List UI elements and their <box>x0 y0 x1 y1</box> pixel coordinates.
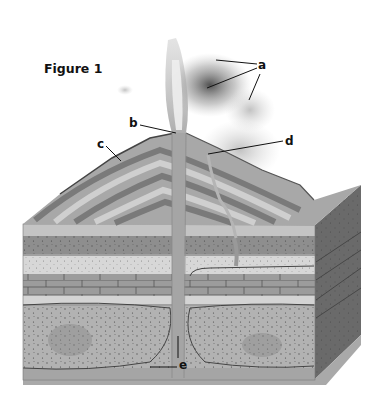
label-a: a <box>258 59 266 71</box>
label-b: b <box>129 117 138 129</box>
label-e: e <box>179 359 187 371</box>
label-c: c <box>97 138 104 150</box>
figure-title: Figure 1 <box>44 63 102 76</box>
block-front-face <box>23 224 315 384</box>
label-d: d <box>285 135 294 147</box>
volcano-cone <box>23 133 361 238</box>
